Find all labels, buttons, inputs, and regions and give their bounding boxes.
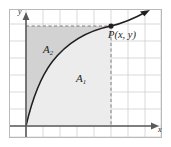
point-P-marker: [108, 23, 113, 28]
label-area-A2-letter: A: [43, 43, 50, 55]
label-y-axis: y: [18, 8, 22, 16]
label-point-P: P(x, y): [108, 30, 136, 41]
label-area-A2: A2: [43, 44, 53, 55]
label-area-A1: A1: [76, 73, 86, 84]
label-x-axis: x: [158, 126, 162, 134]
label-area-A2-subscript: 2: [50, 49, 53, 56]
math-figure-areas: A2 A1 P(x, y) y x: [0, 0, 171, 147]
label-area-A1-letter: A: [76, 72, 83, 84]
label-area-A1-subscript: 1: [83, 78, 86, 85]
